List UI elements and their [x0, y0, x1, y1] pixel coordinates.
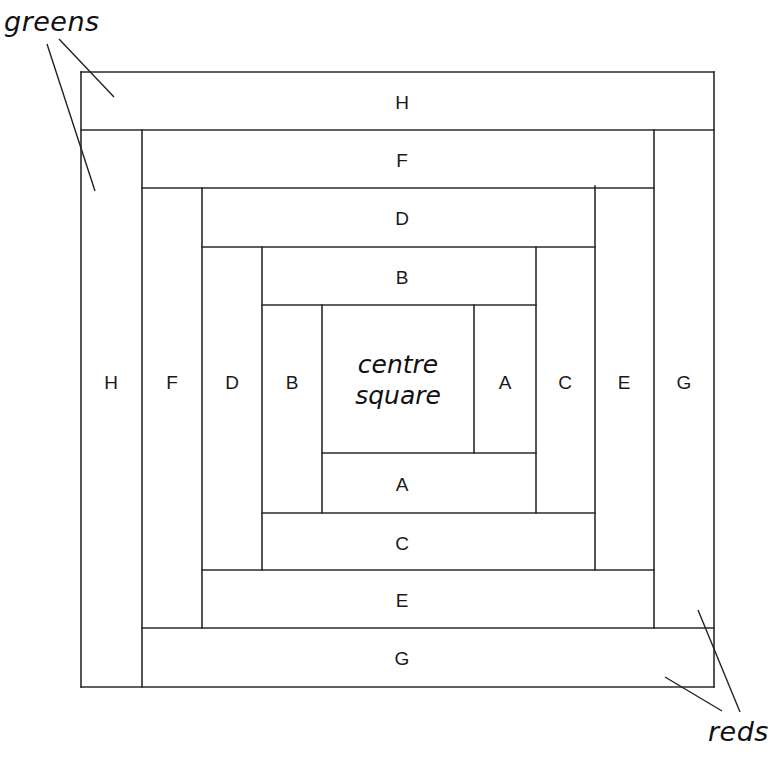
strip-e-right: E	[618, 373, 631, 392]
strip-d-top: D	[395, 209, 409, 228]
reds-annotation: reds	[708, 718, 769, 745]
centre-line-1: centre	[355, 349, 441, 380]
strip-a-bottom: A	[396, 475, 409, 494]
log-cabin-diagram: greens reds centre square B D F H A C E …	[0, 0, 783, 759]
strip-c-bottom: C	[395, 534, 409, 553]
greens-annotation: greens	[4, 8, 100, 35]
strip-h-left: H	[104, 373, 118, 392]
centre-square-label: centre square	[355, 349, 441, 411]
strip-e-bottom: E	[396, 591, 409, 610]
strip-a-right: A	[499, 373, 512, 392]
strip-h-top: H	[395, 93, 409, 112]
centre-line-2: square	[355, 380, 441, 411]
strip-d-left: D	[225, 373, 239, 392]
strip-b-top: B	[396, 268, 409, 287]
strip-f-top: F	[396, 151, 408, 170]
strip-b-left: B	[286, 373, 299, 392]
strip-g-bottom: G	[395, 649, 410, 668]
strip-g-right: G	[677, 373, 692, 392]
strip-c-right: C	[558, 373, 572, 392]
strip-f-left: F	[166, 373, 178, 392]
